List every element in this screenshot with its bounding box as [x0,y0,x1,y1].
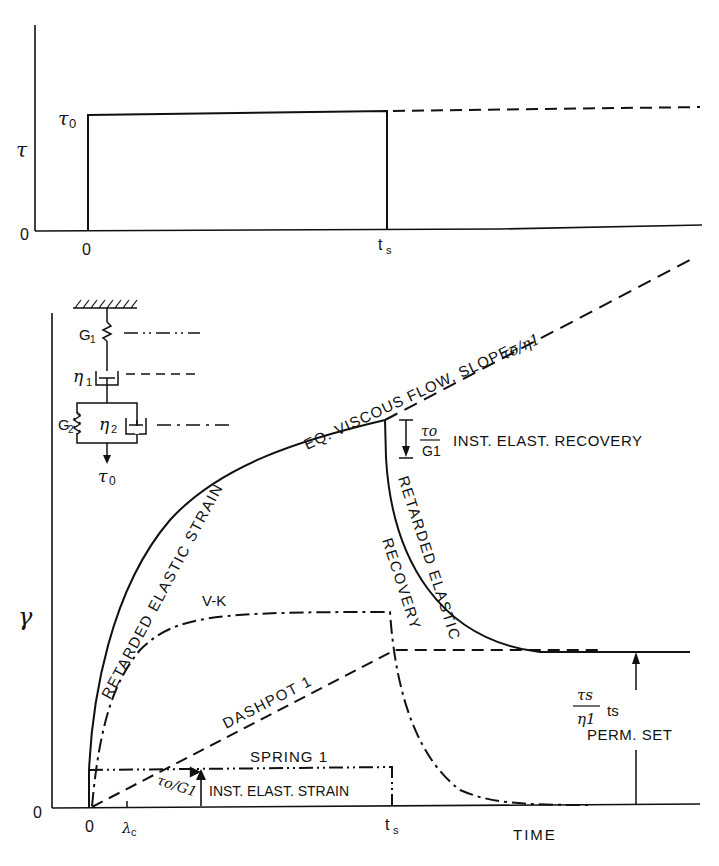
stress-x-axis-extension [500,225,702,229]
label-inst-strain-frac: τo/G1 [155,772,199,800]
strain-x-axis [52,804,700,808]
stress-x-ts: t [378,236,383,253]
force-label: τ [98,466,108,486]
stress-step-line [88,111,387,231]
strain-x-zero: 0 [85,818,94,835]
stress-level-sub: 0 [69,116,76,131]
strain-x-ts-sub: s [393,824,399,836]
strain-chart: γ 0 0 λ c t s TIME RETARDED ELASTIC STRA… [18,260,700,843]
stress-continued-dashed [393,107,700,111]
stress-y-label: τ [16,138,28,162]
g1-label: G [79,326,91,343]
strain-x-lambda-sub: c [131,826,137,838]
recovery-frac-num: τo [421,423,437,439]
eta1-label: η [73,366,84,386]
perm-set-arrowhead [632,652,640,664]
figure-canvas: τ 0 τ 0 0 t s [0,0,719,866]
strain-y-label: γ [18,603,33,631]
eta1-sub: 1 [86,376,92,388]
stress-level-label: τ [58,107,69,129]
eta2-sub: 2 [111,423,117,435]
ceiling-hatch [75,300,137,308]
label-retarded-elastic-strain: RETARDED ELASTIC STRAIN [98,480,227,701]
label-inst-recovery: INST. ELAST. RECOVERY [453,432,642,449]
perm-frac-num: τs [577,686,593,704]
eta2-label: η [99,414,110,434]
stress-y-zero: 0 [20,226,29,243]
g2-sub: 2 [68,424,74,435]
recovery-frac-den: G1 [422,443,441,459]
stress-x-ts-sub: s [386,244,392,256]
label-dashpot1: DASHPOT 1 [220,672,315,732]
strain-x-ts: t [385,816,390,833]
inst-strain-arrowhead [196,769,206,780]
label-spring1: SPRING 1 [250,748,328,765]
label-perm-set: PERM. SET [587,726,672,743]
label-slope-expr: τo/η1 [498,330,543,364]
label-vk: V-K [202,592,226,609]
label-recovery: RECOVERY [379,536,425,632]
strain-x-lambda: λ [121,819,132,837]
stress-x-axis [35,229,500,231]
recovery-arrowhead [402,446,410,457]
burgers-model-diagram: G 1 η 1 G 2 η 2 τ 0 [58,300,230,488]
label-inst-strain: INST. ELAST. STRAIN [209,783,349,799]
stress-chart: τ 0 τ 0 0 t s [16,25,702,258]
total-strain-curve [89,420,385,808]
stress-x-zero: 0 [82,241,91,258]
perm-ts: ts [607,702,619,719]
force-sub: 0 [109,474,116,488]
force-arrow-icon [103,455,111,464]
spring-g1-icon [103,322,111,341]
strain-y-zero: 0 [33,804,42,821]
kv-dashpot-gap [135,426,139,434]
g1-sub: 1 [90,334,96,345]
time-axis-title: TIME [513,826,557,843]
